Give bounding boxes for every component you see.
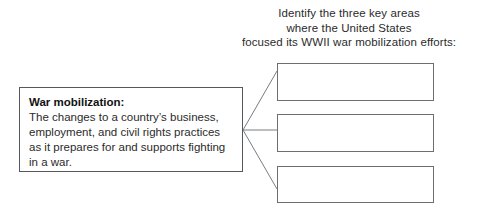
definition-box: War mobilization: The changes to a count… bbox=[19, 87, 243, 172]
answer-box-3[interactable] bbox=[277, 166, 434, 203]
worksheet-page: Identify the three key areas where the U… bbox=[0, 0, 485, 207]
prompt-heading: Identify the three key areas where the U… bbox=[225, 6, 473, 50]
prompt-line-2: where the United States bbox=[225, 21, 473, 36]
definition-line-2: employment, and civil rights practices bbox=[29, 125, 233, 140]
definition-term: War mobilization: bbox=[29, 95, 233, 110]
definition-line-3: as it prepares for and supports fighting bbox=[29, 140, 233, 155]
prompt-line-1: Identify the three key areas bbox=[225, 6, 473, 21]
connector-line-bottom bbox=[243, 130, 277, 189]
answer-box-1[interactable] bbox=[277, 63, 434, 101]
definition-line-1: The changes to a country’s business, bbox=[29, 110, 233, 125]
definition-line-4: in a war. bbox=[29, 155, 233, 170]
connector-line-top bbox=[243, 71, 277, 130]
answer-box-2[interactable] bbox=[277, 114, 434, 152]
prompt-line-3: focused its WWII war mobilization effort… bbox=[225, 35, 473, 50]
